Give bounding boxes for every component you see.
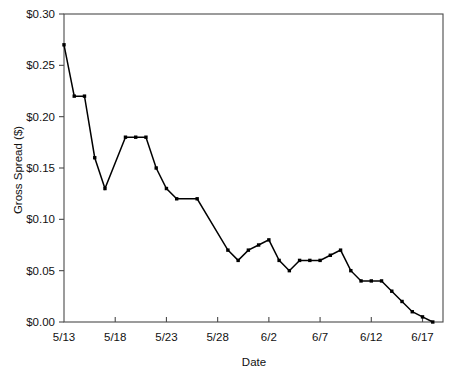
x-tick-label: 5/18 xyxy=(104,331,126,343)
data-point-marker xyxy=(247,248,250,251)
data-point-marker xyxy=(134,136,137,139)
y-tick-label: $0.15 xyxy=(26,162,55,174)
data-point-marker xyxy=(277,259,280,262)
data-point-marker xyxy=(144,136,147,139)
data-point-marker xyxy=(298,259,301,262)
data-point-marker xyxy=(329,254,332,257)
data-point-marker xyxy=(370,279,373,282)
data-point-marker xyxy=(339,248,342,251)
data-point-marker xyxy=(380,279,383,282)
data-point-marker xyxy=(431,320,434,323)
data-point-marker xyxy=(103,187,106,190)
data-point-marker xyxy=(318,259,321,262)
x-tick-label: 5/28 xyxy=(206,331,228,343)
y-tick-label: $0.05 xyxy=(26,265,55,277)
data-point-marker xyxy=(154,166,157,169)
data-point-marker xyxy=(62,43,65,46)
data-point-marker xyxy=(267,238,270,241)
data-point-marker xyxy=(73,94,76,97)
data-point-marker xyxy=(349,269,352,272)
data-point-marker xyxy=(288,269,291,272)
data-point-marker xyxy=(390,290,393,293)
x-tick-label: 6/2 xyxy=(261,331,277,343)
y-tick-label: $0.30 xyxy=(26,8,55,20)
x-tick-label: 6/7 xyxy=(312,331,328,343)
data-point-marker xyxy=(175,197,178,200)
data-point-marker xyxy=(359,279,362,282)
line-chart: $0.00$0.05$0.10$0.15$0.20$0.25$0.30 5/13… xyxy=(0,0,456,375)
data-point-marker xyxy=(195,197,198,200)
chart-background xyxy=(0,0,456,375)
data-point-marker xyxy=(236,259,239,262)
data-point-marker xyxy=(411,310,414,313)
x-tick-label: 5/23 xyxy=(155,331,177,343)
data-point-marker xyxy=(93,156,96,159)
x-tick-label: 6/12 xyxy=(360,331,382,343)
x-tick-label: 6/17 xyxy=(411,331,433,343)
x-tick-label: 5/13 xyxy=(53,331,75,343)
y-tick-label: $0.10 xyxy=(26,213,55,225)
data-point-marker xyxy=(308,259,311,262)
y-tick-label: $0.20 xyxy=(26,111,55,123)
data-point-marker xyxy=(83,94,86,97)
data-point-marker xyxy=(226,248,229,251)
y-tick-label: $0.25 xyxy=(26,59,55,71)
chart-figure: $0.00$0.05$0.10$0.15$0.20$0.25$0.30 5/13… xyxy=(0,0,456,375)
data-point-marker xyxy=(165,187,168,190)
data-point-marker xyxy=(257,243,260,246)
data-point-marker xyxy=(400,300,403,303)
y-axis-title: Gross Spread ($) xyxy=(12,126,24,214)
x-axis-title: Date xyxy=(242,356,266,368)
y-tick-label: $0.00 xyxy=(26,316,55,328)
data-point-marker xyxy=(421,315,424,318)
data-point-marker xyxy=(124,136,127,139)
